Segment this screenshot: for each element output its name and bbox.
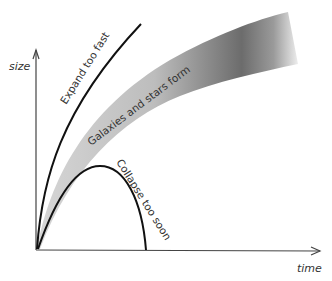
x-axis-label: time [297, 262, 322, 275]
universe-expansion-diagram: size time Expand too fast Galaxies and s… [0, 0, 332, 281]
galaxies-band [37, 12, 298, 249]
x-axis [36, 247, 320, 255]
y-axis [33, 50, 39, 250]
y-axis-label: size [9, 60, 31, 73]
galaxies-stars-form-label: Galaxies and stars form [85, 63, 192, 148]
